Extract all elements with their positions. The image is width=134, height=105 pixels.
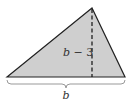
base-brace [7, 80, 125, 88]
triangle [7, 8, 125, 77]
base-label: b [62, 89, 69, 102]
triangle-diagram: b − 3 b [0, 0, 134, 105]
height-label: b − 3 [63, 46, 93, 59]
